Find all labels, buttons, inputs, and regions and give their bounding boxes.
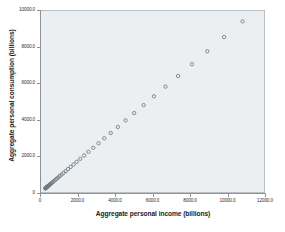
- data-point: [92, 146, 95, 149]
- data-point: [190, 63, 193, 66]
- x-tick-label: 0: [39, 199, 41, 204]
- x-tick-label: 4000.0: [108, 199, 121, 204]
- y-axis-title: Aggregate personal consumption (billions…: [8, 1, 15, 191]
- data-point: [132, 111, 135, 114]
- data-point: [103, 137, 106, 140]
- data-point: [69, 165, 72, 168]
- x-tick-label: 10000.0: [220, 199, 236, 204]
- y-tick-mark: [37, 47, 40, 48]
- data-point: [176, 74, 179, 77]
- data-point: [241, 20, 244, 23]
- data-points-layer: [41, 11, 264, 192]
- y-tick-label: 8000.0: [22, 44, 35, 49]
- data-point: [79, 157, 82, 160]
- x-tick-mark: [40, 194, 41, 197]
- data-point: [222, 35, 225, 38]
- x-tick-mark: [153, 194, 154, 197]
- x-axis-title: Aggregate personal income (billions): [40, 210, 266, 217]
- y-tick-label: 0: [33, 191, 35, 196]
- x-tick-label: 6000.0: [146, 199, 159, 204]
- data-point: [152, 95, 155, 98]
- data-point: [142, 103, 145, 106]
- x-tick-mark: [190, 194, 191, 197]
- x-tick-mark: [115, 194, 116, 197]
- data-point: [87, 150, 90, 153]
- data-point: [82, 154, 85, 157]
- y-tick-label: 6000.0: [22, 81, 35, 86]
- y-tick-label: 4000.0: [22, 118, 35, 123]
- y-axis-line: [40, 10, 41, 194]
- data-point: [164, 85, 167, 88]
- data-point: [124, 119, 127, 122]
- data-point: [109, 131, 112, 134]
- y-tick-mark: [37, 193, 40, 194]
- data-point: [116, 125, 119, 128]
- x-tick-mark: [78, 194, 79, 197]
- data-point: [75, 160, 78, 163]
- scatter-chart: 02000.04000.06000.08000.010000.012000.0 …: [0, 0, 285, 232]
- x-tick-label: 8000.0: [183, 199, 196, 204]
- y-tick-mark: [37, 83, 40, 84]
- y-tick-mark: [37, 156, 40, 157]
- y-tick-mark: [37, 10, 40, 11]
- x-tick-label: 2000.0: [71, 199, 84, 204]
- data-point: [72, 163, 75, 166]
- x-tick-mark: [265, 194, 266, 197]
- y-tick-label: 10000.0: [19, 8, 35, 13]
- y-tick-mark: [37, 120, 40, 121]
- x-tick-mark: [228, 194, 229, 197]
- data-point: [206, 50, 209, 53]
- y-tick-label: 2000.0: [22, 154, 35, 159]
- data-point: [97, 142, 100, 145]
- plot-area: [40, 10, 265, 193]
- x-tick-label: 12000.0: [257, 199, 273, 204]
